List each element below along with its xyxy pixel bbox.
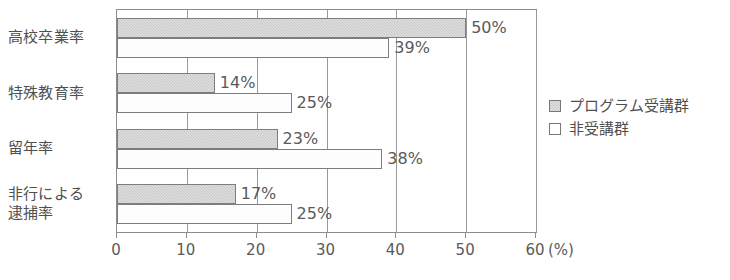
x-tick-0 bbox=[116, 232, 117, 238]
bar-program-1 bbox=[117, 73, 215, 93]
legend-swatch-control-icon bbox=[549, 123, 561, 135]
plot-area: 50%39%14%25%23%38%17%25% bbox=[116, 9, 537, 233]
bar-chart: 高校卒業率 特殊教育率 留年率 非行による 逮捕率 50%39%14%25%23… bbox=[0, 0, 730, 280]
bar-value-control-1: 25% bbox=[297, 95, 333, 111]
bar-program-3 bbox=[117, 184, 236, 204]
category-label-1: 特殊教育率 bbox=[8, 84, 112, 103]
bar-control-1 bbox=[117, 93, 292, 113]
x-tick-label-50: 50 bbox=[456, 241, 475, 259]
bar-value-program-2: 23% bbox=[283, 131, 319, 147]
bar-control-2 bbox=[117, 149, 382, 169]
legend-label-control: 非受講群 bbox=[569, 120, 629, 138]
x-tick-label-30: 30 bbox=[316, 241, 335, 259]
gridline-60 bbox=[536, 10, 537, 232]
category-axis-labels: 高校卒業率 特殊教育率 留年率 非行による 逮捕率 bbox=[0, 9, 112, 233]
bar-value-program-0: 50% bbox=[471, 20, 507, 36]
x-tick-label-20: 20 bbox=[246, 241, 265, 259]
bar-control-0 bbox=[117, 38, 389, 58]
x-tick-label-0: 0 bbox=[111, 241, 121, 259]
bars-layer: 50%39%14%25%23%38%17%25% bbox=[117, 10, 536, 232]
bar-value-control-3: 25% bbox=[297, 206, 333, 222]
x-axis: 0102030405060(%) bbox=[116, 232, 537, 278]
x-tick-40 bbox=[395, 232, 396, 238]
legend-label-program: プログラム受講群 bbox=[569, 97, 689, 115]
x-axis-unit-label: (%) bbox=[548, 241, 574, 259]
bar-value-program-3: 17% bbox=[241, 186, 277, 202]
bar-program-0 bbox=[117, 18, 466, 38]
x-tick-50 bbox=[465, 232, 466, 238]
bar-value-program-1: 14% bbox=[220, 75, 256, 91]
x-tick-label-60: 60 bbox=[525, 241, 544, 259]
x-tick-20 bbox=[256, 232, 257, 238]
x-tick-60 bbox=[535, 232, 536, 238]
bar-program-2 bbox=[117, 129, 278, 149]
x-tick-30 bbox=[326, 232, 327, 238]
category-label-2: 留年率 bbox=[8, 139, 112, 158]
category-label-0: 高校卒業率 bbox=[8, 28, 112, 47]
legend: プログラム受講群 非受講群 bbox=[549, 94, 689, 140]
bar-value-control-0: 39% bbox=[394, 40, 430, 56]
x-tick-10 bbox=[186, 232, 187, 238]
legend-item-control: 非受講群 bbox=[549, 117, 689, 140]
legend-swatch-program-icon bbox=[549, 100, 561, 112]
bar-control-3 bbox=[117, 204, 292, 224]
bar-value-control-2: 38% bbox=[387, 151, 423, 167]
x-tick-label-10: 10 bbox=[176, 241, 195, 259]
legend-item-program: プログラム受講群 bbox=[549, 94, 689, 117]
category-label-3: 非行による 逮捕率 bbox=[8, 185, 112, 223]
x-tick-label-40: 40 bbox=[386, 241, 405, 259]
